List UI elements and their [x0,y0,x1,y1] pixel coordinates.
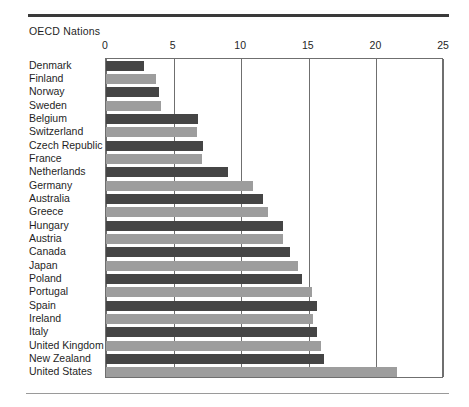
bar-new-zealand [106,354,324,364]
bar-norway [106,87,159,97]
category-label: Canada [29,246,95,257]
bar-denmark [106,61,144,71]
category-label: Spain [29,300,95,311]
category-label: Germany [29,180,95,191]
category-label: Czech Republic [29,140,95,151]
category-label: Australia [29,193,95,204]
bar-ireland [106,314,313,324]
x-tick-label-10: 10 [234,39,246,51]
category-label-column: DenmarkFinlandNorwaySwedenBelgiumSwitzer… [0,58,100,378]
x-tick-label-25: 25 [437,39,449,51]
bar-france [106,154,202,164]
category-label: Switzerland [29,126,95,137]
top-horizontal-rule [28,14,449,17]
category-label: Poland [29,273,95,284]
bar-finland [106,74,156,84]
category-label: New Zealand [29,353,95,364]
gridline-25 [443,59,444,377]
bar-japan [106,261,298,271]
bar-belgium [106,114,198,124]
bar-canada [106,247,290,257]
bar-portugal [106,287,312,297]
bar-united-kingdom [106,341,321,351]
x-tick-label-20: 20 [370,39,382,51]
bar-italy [106,327,317,337]
bar-poland [106,274,302,284]
category-label: Denmark [29,60,95,71]
bar-netherlands [106,167,228,177]
bar-switzerland [106,127,197,137]
page-title: OECD Nations [29,25,100,37]
bottom-horizontal-rule [26,393,449,394]
category-label: Belgium [29,113,95,124]
bar-spain [106,301,317,311]
category-label: Netherlands [29,166,95,177]
category-label: Ireland [29,313,95,324]
category-label: Hungary [29,220,95,231]
x-tick-label-5: 5 [170,39,176,51]
category-label: Sweden [29,100,95,111]
category-label: Italy [29,326,95,337]
bar-czech-republic [106,141,203,151]
bar-series [106,59,442,377]
category-label: Austria [29,233,95,244]
bar-united-states [106,367,397,377]
chart-plot-area [105,58,443,378]
bar-austria [106,234,283,244]
bar-australia [106,194,263,204]
bar-sweden [106,101,161,111]
category-label: Portugal [29,286,95,297]
x-tick-label-15: 15 [302,39,314,51]
category-label: United States [29,366,95,377]
category-label: Norway [29,86,95,97]
x-tick-label-0: 0 [102,39,108,51]
category-label: Japan [29,260,95,271]
bar-hungary [106,221,283,231]
category-label: United Kingdom [29,340,95,351]
bar-greece [106,207,268,217]
category-label: Greece [29,206,95,217]
category-label: France [29,153,95,164]
bar-germany [106,181,253,191]
category-label: Finland [29,73,95,84]
